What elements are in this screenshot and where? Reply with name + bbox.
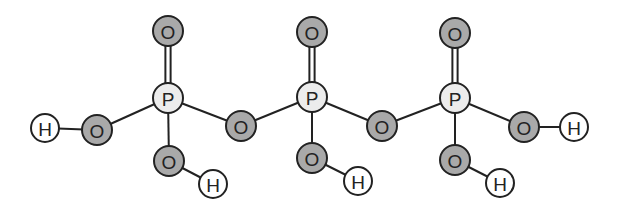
phosphorus-atom: P [297, 82, 327, 112]
hydrogen-atom: H [344, 167, 372, 195]
phosphorus-atom: P [153, 83, 183, 113]
oxygen-atom: O [153, 16, 183, 46]
hydrogen-atom: H [199, 170, 227, 198]
oxygen-atom: O [440, 18, 470, 48]
hydrogen-atom: H [486, 169, 514, 197]
atom-label: O [305, 23, 320, 44]
oxygen-atom: O [440, 145, 470, 175]
hydrogen-atom: H [560, 113, 588, 141]
atom-label: H [38, 119, 52, 140]
atom-label: O [161, 22, 176, 43]
oxygen-atom: O [226, 111, 256, 141]
atom-label: O [517, 118, 532, 139]
atom-label: H [206, 175, 220, 196]
atom-label: O [234, 117, 249, 138]
oxygen-atom: O [82, 115, 112, 145]
atom-label: O [162, 152, 177, 173]
oxygen-atom: O [297, 17, 327, 47]
atom-label: O [448, 151, 463, 172]
atom-label: P [449, 89, 462, 110]
atom-label: H [351, 172, 365, 193]
oxygen-atom: O [509, 112, 539, 142]
atom-label: H [493, 174, 507, 195]
atom-label: O [375, 117, 390, 138]
oxygen-atom: O [154, 146, 184, 176]
atom-label: O [90, 121, 105, 142]
triphosphoric-acid-diagram: HOPOOHOPOOHOPOOHOH [0, 0, 620, 211]
oxygen-atom: O [367, 111, 397, 141]
atom-label: P [162, 89, 175, 110]
phosphorus-atom: P [440, 83, 470, 113]
atom-label: O [448, 24, 463, 45]
atoms-layer: HOPOOHOPOOHOPOOHOH [31, 16, 588, 198]
hydrogen-atom: H [31, 114, 59, 142]
atom-label: O [305, 149, 320, 170]
atom-label: P [306, 88, 319, 109]
oxygen-atom: O [297, 143, 327, 173]
atom-label: H [567, 118, 581, 139]
